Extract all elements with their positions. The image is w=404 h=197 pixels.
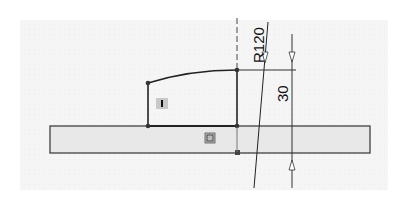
height-dimension-label[interactable]: 30 xyxy=(274,85,291,102)
fix-relation-icon[interactable] xyxy=(205,133,215,143)
vertex-point[interactable] xyxy=(146,81,151,86)
vertical-relation-icon[interactable] xyxy=(156,98,168,109)
sketch-canvas[interactable]: R120 30 xyxy=(0,0,404,197)
vertex-point[interactable] xyxy=(146,124,151,129)
dimension-arrow-bottom xyxy=(289,160,295,170)
radius-dimension-label[interactable]: R120 xyxy=(250,27,267,63)
dimension-arrow-top xyxy=(289,52,295,62)
sketch-svg: R120 30 xyxy=(0,0,404,197)
arc-r120[interactable] xyxy=(148,70,237,83)
